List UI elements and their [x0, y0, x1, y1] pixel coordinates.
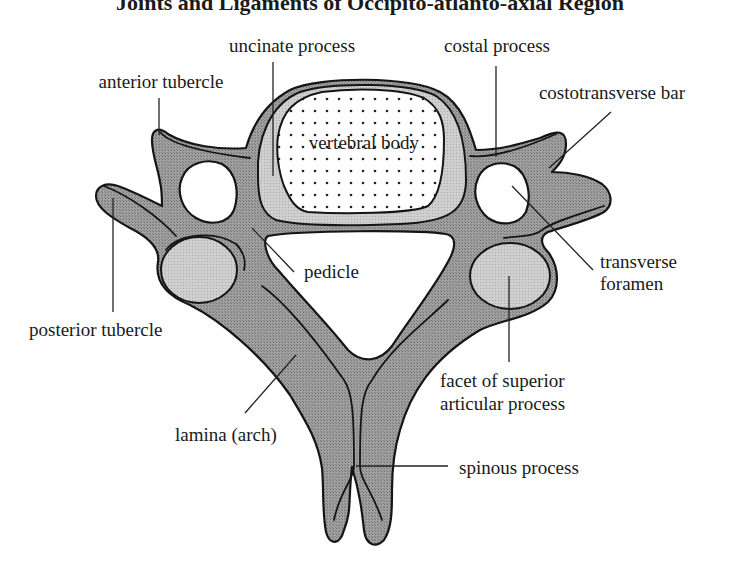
right-articular-facet: [470, 243, 550, 309]
label-uncinate-process: uncinate process: [229, 35, 355, 56]
page-title: Joints and Ligaments of Occipito-atlanto…: [116, 0, 624, 15]
label-transverse-foramen-line1: transverse: [600, 251, 677, 272]
left-articular-facet: [161, 237, 237, 303]
label-costotransverse-bar: costotransverse bar: [539, 82, 686, 103]
label-anterior-tubercle: anterior tubercle: [98, 71, 223, 92]
label-pedicle: pedicle: [304, 261, 359, 282]
label-facet-line1: facet of superior: [440, 370, 565, 391]
label-transverse-foramen-line2: foramen: [600, 273, 664, 294]
label-costal-process: costal process: [444, 35, 550, 56]
cervical-vertebra-diagram: Joints and Ligaments of Occipito-atlanto…: [0, 0, 732, 568]
label-spinous-process: spinous process: [459, 457, 579, 478]
label-lamina: lamina (arch): [175, 424, 277, 446]
label-facet-line2: articular process: [440, 393, 565, 414]
right-transverse-foramen: [475, 163, 528, 223]
label-posterior-tubercle: posterior tubercle: [29, 319, 162, 340]
label-vertebral-body: vertebral body: [309, 132, 420, 153]
